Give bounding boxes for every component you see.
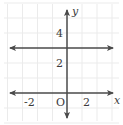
coordinate-plane-figure: y x O -2 2 2 4: [0, 0, 123, 125]
y-axis-label: y: [72, 6, 78, 17]
origin-label: O: [56, 97, 65, 108]
y-tick-label-2: 2: [56, 58, 63, 69]
y-tick-label-4: 4: [56, 28, 63, 39]
x-tick-label-negative-2: -2: [24, 97, 35, 108]
x-axis-label: x: [114, 95, 120, 106]
x-tick-label-2: 2: [83, 97, 90, 108]
